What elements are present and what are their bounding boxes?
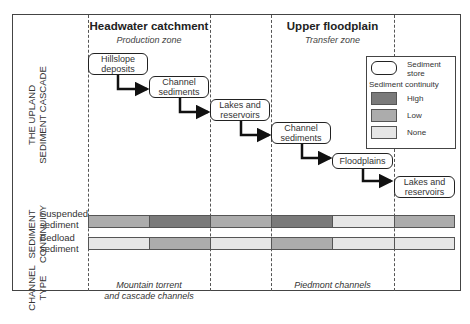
row-label-suspended: Suspended sediment: [40, 208, 88, 230]
legend: Sediment store Sediment continuity High …: [366, 56, 456, 149]
bar-segment-high: [149, 215, 211, 228]
bar-segment-low: [394, 215, 455, 228]
legend-swatch-none: [371, 126, 397, 139]
box-label: Floodplains: [339, 156, 385, 167]
bar-segment-low: [210, 215, 272, 228]
store-box-hillslope: Hillslopedeposits: [88, 53, 148, 75]
label-line: store: [407, 69, 441, 78]
bar-segment-high: [271, 215, 333, 228]
box-label: Channel: [280, 123, 321, 134]
box-label: deposits: [101, 64, 135, 75]
bar-segment-low: [88, 215, 150, 228]
bar-segment-low: [149, 237, 211, 250]
bar-segment-none: [332, 215, 395, 228]
label-line: and cascade channels: [88, 291, 210, 302]
row-label-bedload: Bedload sediment: [40, 232, 79, 254]
box-label: reservoirs: [219, 110, 261, 121]
label-line: Bedload: [40, 232, 79, 243]
store-box-lakes-reservoirs-2: Lakes andreservoirs: [394, 176, 455, 198]
box-label: Channel: [158, 77, 199, 88]
legend-label-low: Low: [407, 111, 422, 120]
channel-type-mountain: Mountain torrent and cascade channels: [88, 280, 210, 302]
box-label: Lakes and: [219, 100, 261, 111]
bar-segment-none: [210, 237, 272, 250]
box-label: sediments: [280, 133, 321, 144]
label-line: Suspended: [40, 208, 88, 219]
store-box-channel-sediments-2: Channelsediments: [271, 122, 331, 144]
label-line: Piedmont channels: [271, 280, 394, 291]
legend-swatch-high: [371, 92, 397, 105]
cascade-arrows: [0, 0, 470, 324]
label-line: Sediment: [407, 60, 441, 69]
store-box-channel-sediments: Channelsediments: [149, 76, 209, 98]
bar-segment-none: [88, 237, 150, 250]
bar-segment-low: [271, 237, 333, 250]
store-box-lakes-reservoirs: Lakes andreservoirs: [210, 99, 270, 121]
bar-segment-none: [394, 237, 455, 250]
box-label: Hillslope: [101, 54, 135, 65]
legend-store-label: Sediment store: [407, 60, 441, 78]
label-line: Mountain torrent: [88, 280, 210, 291]
label-line: sediment: [40, 219, 88, 230]
box-label: Lakes and: [404, 177, 446, 188]
box-label: sediments: [158, 87, 199, 98]
store-box-floodplains: Floodplains: [332, 153, 393, 169]
bar-segment-none: [332, 237, 395, 250]
legend-label-none: None: [407, 128, 426, 137]
store-symbol: [371, 61, 397, 75]
box-label: reservoirs: [404, 187, 446, 198]
legend-swatch-low: [371, 109, 397, 122]
legend-label-high: High: [407, 94, 423, 103]
label-line: sediment: [40, 243, 79, 254]
channel-type-piedmont: Piedmont channels: [271, 280, 394, 291]
legend-continuity-title: Sediment continuity: [369, 80, 439, 89]
